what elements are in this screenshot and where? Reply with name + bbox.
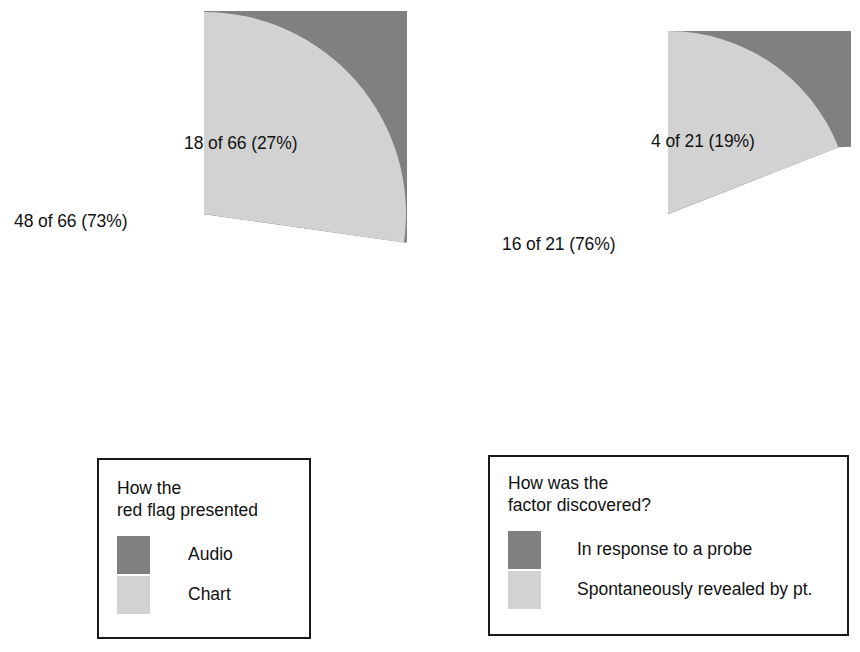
- legend-left: How the red flag presented Audio Chart: [97, 458, 311, 639]
- legend-label-chart: Chart: [188, 586, 231, 604]
- legend-right-title: How was the factor discovered?: [508, 472, 651, 516]
- pie-chart-right: [485, 31, 851, 397]
- pie-chart-figure: 18 of 66 (27%) 48 of 66 (73%) 4 of 21 (1…: [0, 0, 860, 652]
- legend-item-spontaneously-revealed: Spontaneously revealed by pt.: [508, 570, 812, 610]
- legend-left-items: Audio Chart: [117, 535, 233, 615]
- legend-swatch-spontaneously-revealed: [508, 571, 541, 609]
- pie-left-label-chart: 18 of 66 (27%): [184, 135, 297, 153]
- legend-label-audio: Audio: [188, 546, 233, 564]
- legend-item-audio: Audio: [117, 535, 233, 575]
- legend-item-in-response-to-a-probe: In response to a probe: [508, 530, 812, 570]
- legend-right: How was the factor discovered? In respon…: [488, 455, 849, 636]
- pie-right-svg: [485, 31, 851, 397]
- legend-swatch-chart: [117, 576, 150, 614]
- pie-right-label-spontaneous: 4 of 21 (19%): [651, 133, 755, 151]
- legend-right-items: In response to a probe Spontaneously rev…: [508, 530, 812, 610]
- legend-swatch-in-response-to-a-probe: [508, 531, 541, 569]
- legend-item-chart: Chart: [117, 575, 233, 615]
- legend-label-in-response-to-a-probe: In response to a probe: [577, 541, 752, 559]
- legend-swatch-audio: [117, 536, 150, 574]
- legend-left-title: How the red flag presented: [117, 477, 258, 521]
- legend-label-spontaneously-revealed: Spontaneously revealed by pt.: [577, 581, 812, 599]
- pie-left-label-audio: 48 of 66 (73%): [14, 213, 127, 231]
- pie-right-label-probe: 16 of 21 (76%): [502, 236, 615, 254]
